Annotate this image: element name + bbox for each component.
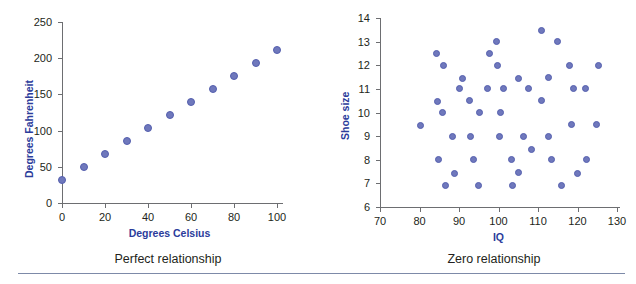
data-point (166, 111, 174, 119)
data-point (497, 109, 504, 116)
data-point (440, 62, 447, 69)
data-point (470, 156, 477, 163)
data-point (451, 170, 458, 177)
x-axis-tick-label: 0 (59, 212, 65, 223)
data-point (508, 156, 515, 163)
y-axis-tick-label: 200 (30, 53, 52, 64)
x-axis-line (62, 203, 283, 204)
data-point (545, 133, 552, 140)
data-point (273, 46, 281, 54)
x-axis-tick (499, 208, 500, 212)
x-axis-tick-label: 80 (413, 216, 425, 227)
x-axis-tick-label: 100 (268, 212, 286, 223)
y-axis-tick (376, 136, 380, 137)
data-point (80, 163, 88, 171)
data-point (570, 85, 577, 92)
panel-zero-relationship: 67891011121314708090100110120130 Shoe si… (318, 0, 636, 284)
data-point (476, 109, 483, 116)
y-axis-tick-label: 250 (30, 17, 52, 28)
data-point (433, 50, 440, 57)
data-point (496, 133, 503, 140)
data-point (568, 121, 575, 128)
data-point (494, 62, 501, 69)
data-point (484, 85, 491, 92)
x-axis-tick (62, 204, 63, 208)
data-point (528, 146, 535, 153)
x-axis-tick-label: 70 (374, 216, 386, 227)
data-point (515, 75, 522, 82)
y-axis-tick-label: 13 (356, 36, 370, 47)
x-axis-tick (148, 204, 149, 208)
x-axis-tick-label: 60 (185, 212, 197, 223)
x-axis-tick-label: 90 (453, 216, 465, 227)
data-point (467, 133, 474, 140)
y-axis-title-degrees-fahrenheit: Degrees Fahrenheit (24, 80, 35, 178)
y-axis-tick (58, 94, 62, 95)
data-point (595, 62, 602, 69)
data-point (515, 169, 522, 176)
data-point (554, 38, 561, 45)
data-point (434, 98, 441, 105)
data-point (475, 182, 482, 189)
data-point (58, 176, 66, 184)
data-point (252, 59, 260, 67)
y-axis-tick (376, 65, 380, 66)
y-axis-tick (58, 58, 62, 59)
data-point (449, 133, 456, 140)
x-axis-tick (538, 208, 539, 212)
y-axis-tick-label: 9 (356, 131, 370, 142)
x-axis-tick (277, 204, 278, 208)
x-axis-tick-label: 110 (529, 216, 547, 227)
data-point (582, 85, 589, 92)
data-point (520, 133, 527, 140)
y-axis-line (380, 18, 381, 207)
y-axis-tick (376, 18, 380, 19)
y-axis-tick-label: 11 (356, 83, 370, 94)
data-point (209, 85, 217, 93)
x-axis-tick-label: 100 (489, 216, 507, 227)
data-point (593, 121, 600, 128)
data-point (459, 75, 466, 82)
data-point (417, 122, 424, 129)
caption-zero-relationship: Zero relationship (447, 253, 540, 266)
bottom-divider (18, 273, 625, 274)
plot-area-celsius-fahrenheit: 050100150200250020406080100 (62, 22, 277, 203)
y-axis-tick-label: 12 (356, 60, 370, 71)
data-point (493, 38, 500, 45)
x-axis-tick-label: 80 (228, 212, 240, 223)
y-axis-tick (376, 89, 380, 90)
x-axis-line (380, 207, 620, 208)
data-point (500, 85, 507, 92)
caption-perfect-relationship: Perfect relationship (114, 253, 221, 266)
data-point (509, 182, 516, 189)
y-axis-tick (376, 160, 380, 161)
data-point (545, 74, 552, 81)
x-axis-tick-label: 120 (568, 216, 586, 227)
x-axis-tick-label: 40 (142, 212, 154, 223)
x-axis-tick (420, 208, 421, 212)
data-point (144, 124, 152, 132)
x-axis-tick (617, 208, 618, 212)
y-axis-tick-label: 10 (356, 107, 370, 118)
data-point (538, 97, 545, 104)
data-point (435, 156, 442, 163)
y-axis-tick (376, 113, 380, 114)
y-axis-tick-label: 0 (30, 198, 52, 209)
data-point (574, 170, 581, 177)
x-axis-title-degrees-celsius: Degrees Celsius (129, 228, 211, 239)
x-axis-title-iq: IQ (493, 232, 504, 243)
data-point (548, 156, 555, 163)
data-point (230, 72, 238, 80)
data-point (439, 109, 446, 116)
y-axis-tick-label: 14 (356, 13, 370, 24)
y-axis-tick (58, 22, 62, 23)
y-axis-tick-label: 7 (356, 178, 370, 189)
x-axis-tick (578, 208, 579, 212)
data-point (466, 97, 473, 104)
plot-area-iq-shoe-size: 67891011121314708090100110120130 (380, 18, 617, 207)
data-point (123, 137, 131, 145)
y-axis-title-shoe-size: Shoe size (340, 92, 351, 140)
data-point (538, 27, 545, 34)
data-point (101, 150, 109, 158)
data-point (442, 182, 449, 189)
